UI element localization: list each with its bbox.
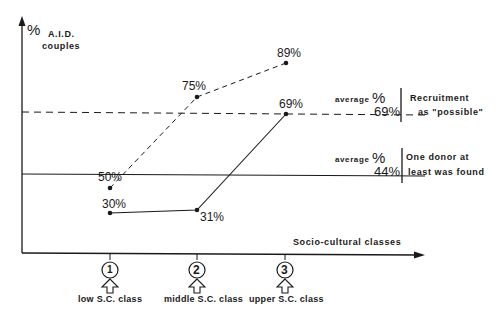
series-donor-line bbox=[110, 114, 286, 213]
point-s3 bbox=[284, 112, 289, 117]
point-d2 bbox=[195, 95, 200, 100]
point-s1 bbox=[108, 211, 113, 216]
average-line-solid bbox=[22, 174, 425, 176]
point-s2 bbox=[195, 208, 200, 213]
data-label-s1: 30% bbox=[102, 197, 126, 211]
category-label-middle: middle S.C. class bbox=[164, 294, 243, 304]
data-label-s3: 69% bbox=[279, 97, 303, 111]
average-label-1: average bbox=[335, 95, 369, 104]
y-axis-percent-symbol: % bbox=[27, 21, 40, 38]
category-number-2: 2 bbox=[193, 263, 200, 277]
average-line-dashed bbox=[22, 112, 425, 115]
legend-donor-line1: One donor at bbox=[406, 152, 469, 162]
legend-recruitment-line1: Recruitment bbox=[410, 93, 469, 103]
data-label-s2: 31% bbox=[200, 210, 224, 224]
y-axis-label-line2: couples bbox=[42, 41, 80, 51]
y-axis-label-line1: A.I.D. bbox=[48, 29, 75, 39]
average-value-1: 69% bbox=[374, 104, 400, 119]
category-number-1: 1 bbox=[107, 264, 113, 275]
category-label-low: low S.C. class bbox=[78, 294, 142, 304]
y-axis-arrow-icon bbox=[19, 16, 26, 26]
legend-recruitment-line2: as "possible" bbox=[418, 107, 483, 117]
x-axis-arrow-icon bbox=[414, 252, 425, 259]
legend-donor-line2: least was found bbox=[408, 167, 485, 177]
data-label-d1: 50% bbox=[98, 170, 122, 184]
data-label-d2: 75% bbox=[182, 79, 206, 93]
point-d3 bbox=[284, 61, 289, 66]
average-value-2: 44% bbox=[374, 164, 400, 179]
average-label-2: average bbox=[335, 155, 369, 164]
x-axis-label: Socio-cultural classes bbox=[293, 237, 401, 247]
data-label-d3: 89% bbox=[277, 46, 301, 60]
category-label-upper: upper S.C. class bbox=[249, 294, 324, 304]
category-number-3: 3 bbox=[281, 263, 288, 277]
point-d1 bbox=[108, 186, 113, 191]
x-axis bbox=[22, 253, 418, 255]
